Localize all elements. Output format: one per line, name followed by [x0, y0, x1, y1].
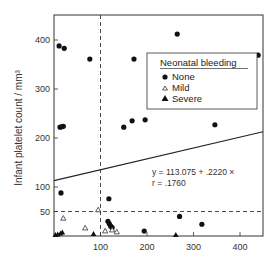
y-tick-label: 200	[35, 133, 50, 143]
data-point-mild	[103, 228, 108, 233]
x-tick-label: 100	[93, 242, 108, 252]
plot-frame	[54, 15, 263, 236]
data-point-none	[61, 124, 66, 129]
legend-severe-label: Severe	[172, 93, 202, 104]
y-axis-title: Infant platelet count / mm³	[13, 70, 24, 186]
data-point-severe	[173, 232, 179, 237]
data-point-none	[62, 46, 67, 51]
y-tick-label: 50	[40, 207, 50, 217]
data-point-none	[199, 222, 204, 227]
x-tick-label: 200	[139, 242, 154, 252]
data-point-none	[130, 118, 135, 123]
reference-lines	[54, 15, 263, 236]
legend-title: Neonatal bleeding	[160, 57, 237, 68]
data-point-none	[57, 43, 62, 48]
data-point-none	[175, 32, 180, 37]
data-point-none	[212, 122, 217, 127]
data-point-none	[142, 229, 147, 234]
data-point-mild	[61, 216, 66, 221]
x-tick-label: 400	[232, 242, 247, 252]
data-point-none	[121, 125, 126, 130]
equation-label: y = 113.075 + .2220 ×	[152, 167, 234, 177]
x-tick-label: 300	[186, 242, 201, 252]
y-axis-ticks: 50100200300400	[35, 35, 58, 217]
data-point-none	[87, 57, 92, 62]
y-tick-label: 400	[35, 35, 50, 45]
legend-none-label: None	[172, 71, 195, 82]
data-point-none	[106, 196, 111, 201]
scatter-chart: 100200300400 50100200300400 Infant plate…	[0, 0, 274, 262]
data-point-mild	[83, 225, 88, 230]
r-value-label: r = .1760	[152, 178, 186, 188]
y-tick-label: 300	[35, 84, 50, 94]
data-point-none	[131, 57, 136, 62]
legend-mild-label: Mild	[172, 82, 189, 93]
x-axis-ticks: 100200300400	[93, 232, 248, 252]
regression-equation: y = 113.075 + .2220 × r = .1760	[152, 167, 234, 188]
y-tick-label: 100	[35, 182, 50, 192]
data-point-severe	[91, 231, 97, 236]
data-point-mild	[96, 207, 101, 212]
data-point-none	[143, 117, 148, 122]
legend-none-marker-icon	[162, 74, 167, 79]
data-point-none	[58, 190, 63, 195]
legend: Neonatal bleeding None Mild Severe	[147, 53, 257, 109]
data-point-none	[177, 214, 182, 219]
